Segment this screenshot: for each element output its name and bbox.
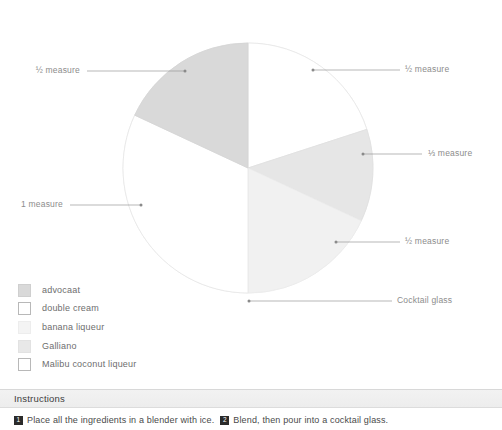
legend-swatch-double-cream	[18, 302, 31, 315]
pie-chart-svg	[0, 0, 502, 320]
instructions-header-band: Instructions	[0, 389, 502, 408]
instructions-title: Instructions	[14, 393, 65, 404]
step-badge-1: 1	[14, 416, 23, 425]
leader-line-bottom-right	[248, 300, 393, 303]
pie-chart-region: ½ measure 1 measure ½ measure ⅓ measure …	[0, 0, 502, 320]
legend-item-galliano[interactable]: Galliano	[18, 337, 248, 356]
legend-swatch-malibu-coconut-liqueur	[18, 358, 31, 371]
step-text-1: Place all the ingredients in a blender w…	[27, 415, 214, 425]
legend-swatch-galliano	[18, 340, 31, 353]
legend-label-galliano: Galliano	[42, 342, 77, 351]
legend: advocaat double cream banana liqueur Gal…	[18, 281, 248, 374]
callout-label-mid-right: ⅓ measure	[428, 149, 472, 158]
infographic-page: ½ measure 1 measure ½ measure ⅓ measure …	[0, 0, 502, 430]
legend-swatch-advocaat	[18, 284, 31, 297]
callout-label-top-left: ½ measure	[0, 66, 80, 75]
legend-label-banana-liqueur: banana liqueur	[42, 323, 104, 332]
step-badge-2: 2	[220, 416, 229, 425]
step-text-2: Blend, then pour into a cocktail glass.	[233, 415, 388, 425]
legend-item-advocaat[interactable]: advocaat	[18, 281, 248, 300]
legend-item-double-cream[interactable]: double cream	[18, 300, 248, 319]
legend-swatch-banana-liqueur	[18, 321, 31, 334]
legend-label-double-cream: double cream	[42, 304, 99, 313]
callout-label-bottom-right: Cocktail glass	[397, 296, 452, 305]
legend-item-banana-liqueur[interactable]: banana liqueur	[18, 318, 248, 337]
instructions-body: 1 Place all the ingredients in a blender…	[0, 408, 502, 425]
callout-label-lower-right: ½ measure	[405, 237, 449, 246]
legend-label-advocaat: advocaat	[42, 286, 80, 295]
callout-label-mid-left: 1 measure	[0, 200, 63, 209]
instructions-section: Instructions 1 Place all the ingredients…	[0, 389, 502, 425]
legend-label-malibu-coconut-liqueur: Malibu coconut liqueur	[42, 360, 136, 369]
legend-item-malibu-coconut-liqueur[interactable]: Malibu coconut liqueur	[18, 355, 248, 374]
callout-label-top-right: ½ measure	[405, 65, 449, 74]
